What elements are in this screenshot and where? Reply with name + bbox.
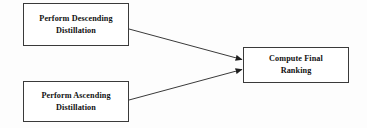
node-label: Perform Ascending Distillation <box>38 90 113 114</box>
node-perform-descending-distillation[interactable]: Perform Descending Distillation <box>23 3 129 46</box>
node-compute-final-ranking[interactable]: Compute Final Ranking <box>243 47 349 83</box>
node-perform-ascending-distillation[interactable]: Perform Ascending Distillation <box>23 81 129 122</box>
node-label: Perform Descending Distillation <box>36 13 115 37</box>
flowchart-diagram: Perform Descending Distillation Perform … <box>0 0 367 128</box>
edge-descending-to-compute <box>129 29 242 60</box>
node-label: Compute Final Ranking <box>266 53 326 77</box>
edge-ascending-to-compute <box>129 70 242 101</box>
